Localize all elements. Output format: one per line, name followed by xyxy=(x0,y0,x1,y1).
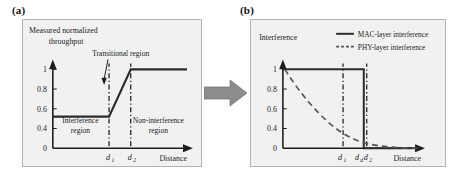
panel-a-xtick-label-d1-sub: 1 xyxy=(112,157,115,163)
panel-a-y-axis-label-line1: Measured normalized xyxy=(29,26,98,35)
panel-b-ytick-label-04: 0.4 xyxy=(267,124,277,133)
panel-a-ytick-label-1: 1 xyxy=(43,65,47,74)
panel-b-xtick-label-d2: d xyxy=(364,153,369,162)
panel-a-ytick-label-06: 0.6 xyxy=(37,105,47,114)
panel-b-tag: (b) xyxy=(240,4,254,16)
panel-a-ytick-label-08: 0.8 xyxy=(37,85,47,94)
panel-a-chart: Measured normalized throughput Transitio… xyxy=(23,20,201,166)
panel-b: Interference MAC-layer interference PHY-… xyxy=(250,19,446,167)
panel-b-ytick-label-1: 1 xyxy=(273,65,277,74)
panel-b-ytick-label-0: 0 xyxy=(273,144,277,153)
panel-b-y-axis-label: Interference xyxy=(259,33,298,42)
panel-b-ytick-label-06: 0.6 xyxy=(267,105,277,114)
panel-a-y-axis-label-line2: throughput xyxy=(49,37,84,46)
legend-label-phy: PHY-layer interference xyxy=(358,43,425,52)
panel-a-interference-region-line2: region xyxy=(71,126,90,135)
panel-b-chart: Interference MAC-layer interference PHY-… xyxy=(251,20,445,166)
panel-a-xtick-label-d2: d xyxy=(128,153,133,162)
legend-label-mac: MAC-layer interference xyxy=(358,30,428,39)
panel-b-xtick-label-d1: d xyxy=(338,153,343,162)
flow-arrow xyxy=(204,78,248,108)
figure-root: (a) Measured normalized throughput Trans… xyxy=(0,0,456,174)
panel-a-y-axis-arrowhead xyxy=(49,59,56,69)
panel-a-non-interference-region-line2: region xyxy=(149,126,168,135)
panel-b-xtick-label-dd: d xyxy=(355,153,360,162)
panel-b-y-axis-arrowhead xyxy=(279,59,286,69)
panel-a-throughput-curve xyxy=(53,69,187,116)
panel-b-phy-curve xyxy=(285,69,419,148)
panel-b-xtick-label-d2-sub: 2 xyxy=(369,157,372,163)
panel-a-xtick-label-d1: d xyxy=(106,153,111,162)
panel-a-ytick-label-0: 0 xyxy=(43,144,47,153)
panel-b-ytick-label-08: 0.8 xyxy=(267,85,277,94)
panel-b-xtick-label-d1-sub: 1 xyxy=(344,157,347,163)
panel-a-x-axis-arrowhead xyxy=(183,144,193,152)
panel-b-mac-curve xyxy=(283,69,419,148)
panel-a-x-axis-label: Distance xyxy=(159,154,187,163)
panel-b-x-axis-label: Distance xyxy=(393,154,421,163)
transitional-pointer-line xyxy=(104,59,108,79)
panel-a-tag: (a) xyxy=(12,4,25,16)
panel-a: Measured normalized throughput Transitio… xyxy=(22,19,202,167)
panel-a-non-interference-region-line1: Non-interference xyxy=(133,116,185,125)
panel-a-ytick-label-04: 0.4 xyxy=(37,124,47,133)
flow-arrow-shape xyxy=(204,80,247,106)
panel-b-legend: MAC-layer interference PHY-layer interfe… xyxy=(336,30,428,52)
panel-a-transitional-region-label: Transitional region xyxy=(92,50,149,59)
panel-a-interference-region-line1: Interference xyxy=(62,116,99,125)
panel-a-xtick-label-d2-sub: 2 xyxy=(133,157,136,163)
transitional-pointer-arrowhead xyxy=(101,78,106,85)
